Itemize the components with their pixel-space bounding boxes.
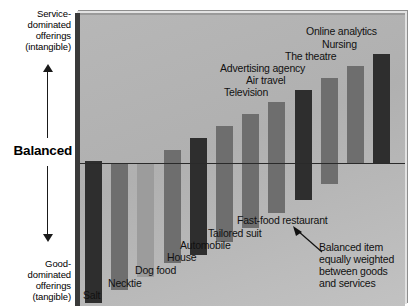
bar-nursing: [347, 66, 364, 163]
callout-line-3: between goods: [319, 265, 394, 277]
axis-top-caption: Service- dominated offerings (intangible…: [0, 8, 76, 52]
bar-label-fast-food: Fast-food restaurant: [237, 215, 328, 227]
bar-label-tailored-suit: Tailored suit: [208, 228, 261, 240]
bar-label-advertising-agency: Advertising agency: [220, 63, 305, 75]
axis-column: Service- dominated offerings (intangible…: [0, 0, 76, 306]
bar-dog-food: [137, 163, 154, 277]
bar-necktie: [111, 163, 128, 290]
baseline-axis: [80, 163, 405, 164]
axis-top-line-3: offerings: [0, 30, 71, 41]
bar-label-nursing: Nursing: [322, 39, 357, 51]
bar-label-television: Television: [224, 87, 268, 99]
bar-television: [242, 114, 259, 228]
bar-air-travel: [268, 102, 285, 213]
callout-line-2: equally weighted: [319, 253, 394, 265]
arrow-down-shaft: [47, 166, 48, 236]
bar-label-air-travel: Air travel: [246, 75, 285, 87]
bar-label-dog-food: Dog food: [135, 265, 176, 277]
bar-advertising-agency: [295, 90, 312, 200]
bar-label-necktie: Necktie: [108, 278, 142, 290]
bar-automobile: [190, 138, 207, 255]
bar-tailored-suit: [216, 126, 233, 242]
axis-top-line-4: (intangible): [0, 41, 71, 52]
callout-line-1: Balanced item: [319, 241, 394, 253]
axis-bottom-line-4: (tangible): [0, 291, 71, 302]
bar-house: [164, 150, 181, 263]
bar-salt: [85, 161, 102, 303]
callout-text: Balanced item equally weighted between g…: [319, 241, 394, 289]
axis-bottom-line-2: dominated: [0, 269, 71, 280]
axis-top-line-1: Service-: [0, 8, 71, 19]
callout-line-4: and services: [319, 277, 394, 289]
axis-top-line-2: dominated: [0, 19, 71, 30]
bar-label-automobile: Automobile: [180, 240, 231, 252]
axis-bottom-line-3: offerings: [0, 280, 71, 291]
bar-the-theatre: [321, 78, 338, 184]
chart-panel: Salt Necktie Dog food House Automobile T…: [75, 13, 405, 306]
axis-bottom-caption: Good- dominated offerings (tangible): [0, 258, 76, 302]
axis-bottom-line-1: Good-: [0, 258, 71, 269]
bar-label-house: House: [167, 252, 196, 264]
axis-center-label: Balanced: [0, 143, 72, 158]
bar-label-the-theatre: The theatre: [285, 51, 337, 63]
plot-area: Salt Necktie Dog food House Automobile T…: [80, 13, 405, 306]
arrow-up-shaft: [47, 70, 48, 138]
bar-online-analytics: [373, 54, 390, 163]
bar-label-salt: Salt: [83, 290, 100, 302]
bar-label-online-analytics: Online analytics: [306, 26, 377, 38]
arrow-down-icon: [43, 234, 53, 242]
